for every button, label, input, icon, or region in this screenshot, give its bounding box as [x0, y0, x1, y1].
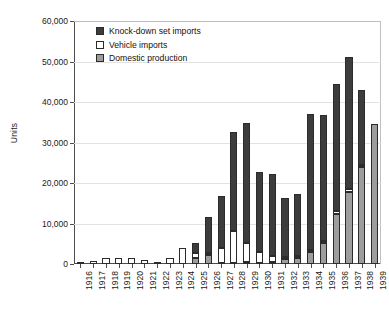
stacked-bar[interactable] — [281, 198, 288, 264]
x-tick-mark — [272, 264, 273, 268]
x-tick-label: 1916 — [84, 271, 94, 290]
x-tick-label: 1920 — [135, 271, 145, 290]
y-tick-label: 20,000 — [42, 178, 68, 188]
x-tick-mark — [144, 264, 145, 268]
x-tick-mark — [285, 264, 286, 268]
x-tick-label: 1937 — [353, 271, 363, 290]
bar-segment — [371, 124, 378, 264]
x-tick-mark — [298, 264, 299, 268]
y-tick-label: 0 — [63, 259, 68, 269]
bar-column — [243, 21, 250, 264]
bar-column — [256, 21, 263, 264]
bar-column — [269, 21, 276, 264]
x-tick-mark — [349, 264, 350, 268]
stacked-bar[interactable] — [320, 115, 327, 264]
stacked-bar[interactable] — [358, 90, 365, 264]
bar-column — [230, 21, 237, 264]
stacked-bar[interactable] — [230, 132, 237, 264]
x-tick-mark — [362, 264, 363, 268]
bar-segment — [320, 115, 327, 241]
bar-column — [294, 21, 301, 264]
stacked-bar[interactable] — [269, 174, 276, 264]
stacked-bar[interactable] — [243, 123, 250, 264]
bar-segment — [307, 250, 314, 252]
x-tick-mark — [132, 264, 133, 268]
bar-segment — [192, 243, 199, 253]
bar-column — [371, 21, 378, 264]
bar-segment — [358, 167, 365, 264]
bar-segment — [345, 57, 352, 189]
x-tick-label: 1926 — [212, 271, 222, 290]
x-tick-mark — [80, 264, 81, 268]
bar-segment — [333, 214, 340, 264]
y-tick-label: 30,000 — [42, 138, 68, 148]
stacked-bar-chart: Units 010,00020,00030,00040,00050,00060,… — [0, 0, 389, 318]
stacked-bar[interactable] — [345, 57, 352, 264]
x-tick-mark — [375, 264, 376, 268]
x-tick-mark — [106, 264, 107, 268]
x-tick-mark — [196, 264, 197, 268]
stacked-bar[interactable] — [205, 217, 212, 264]
bar-segment — [230, 231, 237, 263]
bar-segment — [218, 196, 225, 248]
legend-label: Vehicle imports — [109, 40, 167, 50]
dark-square-swatch-icon — [96, 27, 104, 35]
y-tick-label: 10,000 — [42, 219, 68, 229]
bar-segment — [243, 243, 250, 262]
stacked-bar[interactable] — [192, 243, 199, 264]
y-tick-label: 60,000 — [42, 16, 68, 26]
chart-legend: Knock-down set imports Vehicle imports D… — [96, 25, 201, 64]
x-tick-label: 1918 — [110, 271, 120, 290]
x-tick-mark — [183, 264, 184, 268]
y-tick-mark — [70, 264, 74, 265]
x-tick-label: 1929 — [250, 271, 260, 290]
bar-column — [307, 21, 314, 264]
x-tick-label: 1934 — [314, 271, 324, 290]
bar-segment — [345, 192, 352, 264]
bar-segment — [230, 132, 237, 232]
x-tick-label: 1919 — [122, 271, 132, 290]
legend-item-vehicle-imports: Vehicle imports — [96, 39, 201, 51]
bar-column — [333, 21, 340, 264]
legend-label: Knock-down set imports — [109, 26, 201, 36]
stacked-bar[interactable] — [294, 194, 301, 264]
x-tick-mark — [93, 264, 94, 268]
bar-segment — [192, 253, 199, 258]
bar-column — [205, 21, 212, 264]
y-axis-title: Units — [9, 103, 19, 163]
bar-segment — [281, 198, 288, 257]
white-square-swatch-icon — [96, 41, 104, 49]
y-tick-label: 40,000 — [42, 97, 68, 107]
stacked-bar[interactable] — [307, 114, 314, 264]
bar-segment — [307, 114, 314, 250]
gray-square-swatch-icon — [96, 54, 104, 62]
stacked-bar[interactable] — [371, 124, 378, 264]
bar-column — [320, 21, 327, 264]
stacked-bar[interactable] — [256, 172, 263, 264]
bar-segment — [256, 172, 263, 253]
stacked-bar[interactable] — [333, 84, 340, 264]
x-tick-label: 1927 — [225, 271, 235, 290]
x-tick-mark — [259, 264, 260, 268]
bar-segment — [179, 248, 186, 264]
bar-segment — [320, 243, 327, 264]
bar-segment — [256, 252, 263, 263]
stacked-bar[interactable] — [179, 248, 186, 264]
bar-column — [281, 21, 288, 264]
bar-segment — [320, 241, 327, 243]
bar-column — [345, 21, 352, 264]
bar-segment — [345, 189, 352, 192]
stacked-bar[interactable] — [218, 196, 225, 264]
x-tick-label: 1930 — [263, 271, 273, 290]
x-tick-label: 1933 — [301, 271, 311, 290]
bar-segment — [205, 217, 212, 253]
bar-segment — [358, 90, 365, 165]
bar-segment — [333, 84, 340, 211]
x-tick-label: 1917 — [97, 271, 107, 290]
x-tick-label: 1939 — [378, 271, 388, 290]
x-tick-mark — [234, 264, 235, 268]
x-tick-label: 1935 — [327, 271, 337, 290]
bar-segment — [307, 252, 314, 264]
x-tick-mark — [208, 264, 209, 268]
x-tick-label: 1936 — [340, 271, 350, 290]
